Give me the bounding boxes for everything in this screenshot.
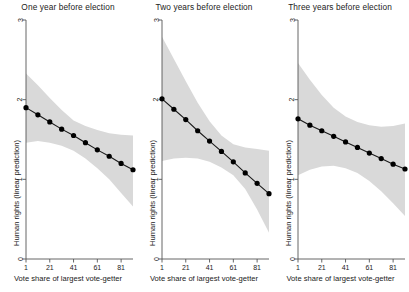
data-point-marker	[391, 162, 396, 167]
y-axis-tick-label: 0	[289, 257, 296, 261]
data-point-marker	[35, 112, 40, 117]
data-point-marker	[130, 167, 135, 172]
data-point-marker	[71, 133, 76, 138]
data-point-marker	[207, 138, 212, 143]
y-axis-tick-label: 0	[153, 257, 160, 261]
data-point-marker	[355, 145, 360, 150]
data-point-marker	[231, 159, 236, 164]
panel-two-years-before-election: Two years before election Human rights (…	[136, 0, 272, 292]
confidence-interval-band	[298, 63, 405, 216]
x-axis-tick-label: 21	[182, 264, 190, 271]
data-point-marker	[307, 123, 312, 128]
data-point-marker	[47, 119, 52, 124]
x-axis-tick-label: 1	[24, 264, 28, 271]
y-axis-tick-label: 2	[289, 98, 296, 102]
data-point-marker	[367, 150, 372, 155]
x-axis-tick-label: 41	[206, 264, 214, 271]
data-point-marker	[402, 166, 407, 171]
x-axis-label: Vote share of largest vote-getter	[136, 274, 272, 283]
x-axis-tick-label: 21	[46, 264, 54, 271]
panel-plot-area: 0123121416181	[272, 0, 409, 292]
data-point-marker	[23, 105, 28, 110]
x-axis-tick-label: 61	[93, 264, 101, 271]
data-point-marker	[379, 156, 384, 161]
data-point-marker	[295, 116, 300, 121]
panel-plot-area: 0123121416181	[0, 0, 136, 292]
data-point-marker	[59, 127, 64, 132]
panel-three-years-before-election: Three years before election Human rights…	[272, 0, 409, 292]
y-axis-tick-label: 0	[17, 257, 24, 261]
panel-plot-area: 0123121416181	[136, 0, 272, 292]
data-point-marker	[119, 161, 124, 166]
x-axis-tick-label: 21	[318, 264, 326, 271]
data-point-marker	[319, 128, 324, 133]
x-axis-tick-label: 61	[365, 264, 373, 271]
x-axis-label: Vote share of largest vote-getter	[0, 274, 136, 283]
x-axis-tick-label: 81	[253, 264, 261, 271]
y-axis-tick-label: 3	[153, 18, 160, 22]
data-point-marker	[255, 181, 260, 186]
data-point-marker	[195, 128, 200, 133]
data-point-marker	[266, 191, 271, 196]
figure-panel-chart: One year before election Human rights (l…	[0, 0, 409, 292]
x-axis-tick-label: 81	[117, 264, 125, 271]
x-axis-tick-label: 41	[70, 264, 78, 271]
y-axis-tick-label: 3	[17, 18, 24, 22]
panel-one-year-before-election: One year before election Human rights (l…	[0, 0, 136, 292]
x-axis-tick-label: 1	[160, 264, 164, 271]
data-point-marker	[159, 96, 164, 101]
data-point-marker	[95, 147, 100, 152]
confidence-interval-band	[162, 37, 269, 233]
x-axis-tick-label: 81	[389, 264, 397, 271]
y-axis-tick-label: 2	[17, 98, 24, 102]
x-axis-label: Vote share of largest vote-getter	[272, 274, 409, 283]
confidence-interval-band	[26, 73, 133, 206]
y-axis-tick-label: 1	[153, 177, 160, 181]
y-axis-tick-label: 1	[289, 177, 296, 181]
data-point-marker	[107, 154, 112, 159]
data-point-marker	[83, 140, 88, 145]
y-axis-tick-label: 1	[17, 177, 24, 181]
data-point-marker	[183, 117, 188, 122]
y-axis-tick-label: 2	[153, 98, 160, 102]
data-point-marker	[331, 134, 336, 139]
data-point-marker	[243, 170, 248, 175]
data-point-marker	[219, 149, 224, 154]
data-point-marker	[171, 107, 176, 112]
y-axis-tick-label: 3	[289, 18, 296, 22]
x-axis-tick-label: 1	[296, 264, 300, 271]
x-axis-tick-label: 61	[229, 264, 237, 271]
x-axis-tick-label: 41	[342, 264, 350, 271]
data-point-marker	[343, 139, 348, 144]
